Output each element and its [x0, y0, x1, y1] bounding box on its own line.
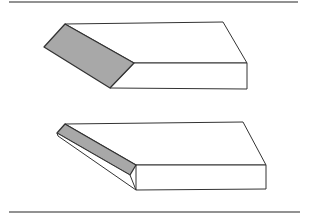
single-bevel-block — [44, 22, 247, 89]
beveled-blocks-diagram — [0, 0, 313, 216]
front-face — [136, 165, 266, 190]
double-bevel-block — [57, 122, 266, 190]
